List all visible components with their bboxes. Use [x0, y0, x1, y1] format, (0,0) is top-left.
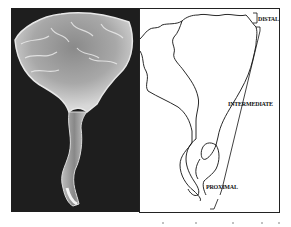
label-intermediate: INTERMEDIATE [228, 101, 273, 107]
micrograph-image [11, 8, 139, 212]
caption-remnant-dots [0, 220, 291, 226]
label-distal: DISTAL [258, 16, 279, 22]
label-proximal: PROXIMAL [206, 184, 238, 190]
micrograph-panel [11, 8, 139, 212]
diagram-panel: DISTAL INTERMEDIATE PROXIMAL [139, 8, 280, 213]
